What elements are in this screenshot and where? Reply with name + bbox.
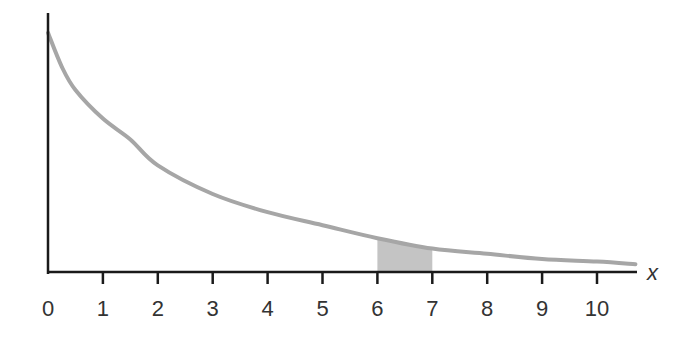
x-tick-label: 1 bbox=[97, 296, 109, 321]
x-tick-label: 8 bbox=[481, 296, 493, 321]
x-axis-ticks bbox=[103, 272, 597, 284]
x-tick-label: 7 bbox=[426, 296, 438, 321]
x-tick-label: 9 bbox=[536, 296, 548, 321]
x-tick-label: 10 bbox=[585, 296, 609, 321]
density-curve bbox=[48, 33, 635, 264]
x-tick-label: 6 bbox=[371, 296, 383, 321]
x-tick-label: 3 bbox=[207, 296, 219, 321]
x-axis-tick-labels: 012345678910 bbox=[42, 296, 609, 321]
x-tick-label: 4 bbox=[261, 296, 273, 321]
x-axis-label: x bbox=[646, 260, 659, 285]
x-tick-label: 5 bbox=[316, 296, 328, 321]
decay-curve-chart: 012345678910 x bbox=[0, 0, 699, 350]
x-tick-label: 2 bbox=[152, 296, 164, 321]
x-tick-label: 0 bbox=[42, 296, 54, 321]
